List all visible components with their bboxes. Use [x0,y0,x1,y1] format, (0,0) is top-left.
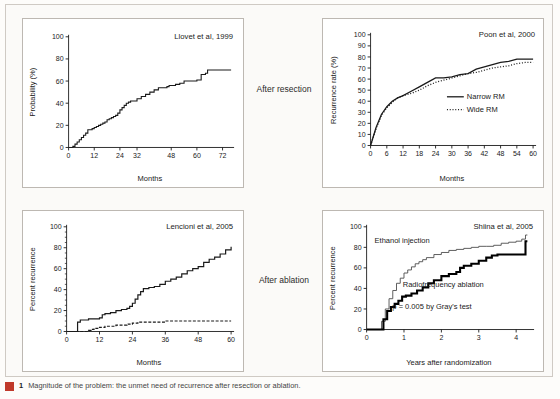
y-tick-label: 60 [54,265,62,272]
x-tick-label: 24 [128,336,136,343]
chart-annotation-2: p = 0.005 by Gray's test [392,302,472,311]
x-tick-label: 18 [415,150,423,157]
y-tick-label: 60 [358,76,366,83]
x-tick-label: 60 [529,150,537,157]
y-tick-label: 20 [56,122,64,129]
series-line-1 [67,321,232,331]
y-axis-label: Probability (%) [28,67,37,116]
x-tick-label: 12 [90,152,98,159]
x-tick-label: 2 [439,334,443,341]
x-tick-label: 4 [514,334,518,341]
x-tick-label: 36 [464,150,472,157]
chart-panel-lencioni: 02040608010001224364860MonthsPercent rec… [22,210,244,372]
chart-title: Lencioni et al, 2005 [166,222,233,231]
chart-annotation-1: Radiofrequency ablation [403,280,484,289]
x-tick-label: 48 [194,336,202,343]
legend-label-1: Wide RM [467,105,498,114]
x-tick-label: 48 [167,152,175,159]
series-line-0 [69,70,232,147]
y-tick-label: 30 [358,109,366,116]
chart-svg-shiina: 02040608010001234Years after randomizati… [323,211,543,371]
chart-title: Poon et al, 2000 [479,30,535,39]
y-tick-label: 20 [358,120,366,127]
x-tick-label: 36 [161,336,169,343]
y-tick-label: 80 [354,244,362,251]
chart-title: Llovet et al, 1999 [174,32,233,41]
y-tick-label: 100 [350,223,362,230]
y-tick-label: 0 [358,326,362,333]
chart-svg-llovet: 0204060801000122432486072MonthsProbabili… [23,19,243,187]
chart-svg-poon: 0102030405060708090100061218243036424854… [323,19,543,187]
group-label-after-ablation: After ablation [248,275,320,285]
x-tick-label: 32 [133,152,141,159]
chart-panel-poon: 0102030405060708090100061218243036424854… [322,18,544,188]
group-label-after-resection: After resection [248,84,320,94]
x-axis-label: Years after randomization [406,358,491,367]
y-tick-label: 0 [58,328,62,335]
x-tick-label: 24 [432,150,440,157]
series-line-1 [371,62,534,145]
y-tick-label: 100 [354,31,366,38]
y-tick-label: 90 [358,42,366,49]
figure-root: 0204060801000122432486072MonthsProbabili… [0,0,560,399]
x-tick-label: 54 [513,150,521,157]
y-tick-label: 0 [60,144,64,151]
x-tick-label: 72 [219,152,227,159]
y-axis-label: Percent recurrence [28,247,37,311]
y-tick-label: 80 [358,54,366,61]
x-tick-label: 12 [96,336,104,343]
x-tick-label: 30 [448,150,456,157]
x-tick-label: 60 [227,336,235,343]
y-tick-label: 100 [50,223,62,230]
figure-caption: 1 Magnitude of the problem: the unmet ne… [5,381,553,391]
x-axis-label: Months [138,174,163,183]
caption-marker-icon [5,382,14,391]
x-axis-label: Months [137,358,162,367]
y-tick-label: 80 [54,244,62,251]
chart-annotation-0: Ethanol injection [375,236,430,245]
y-tick-label: 40 [354,285,362,292]
chart-panel-shiina: 02040608010001234Years after randomizati… [322,210,544,372]
series-line-0 [67,247,232,332]
caption-text: Magnitude of the problem: the unmet need… [28,381,300,390]
y-tick-label: 20 [54,307,62,314]
y-tick-label: 40 [54,286,62,293]
y-tick-label: 100 [52,33,64,40]
y-tick-label: 80 [56,56,64,63]
y-tick-label: 50 [358,87,366,94]
y-tick-label: 60 [354,264,362,271]
y-axis-label: Recurrence rate (%) [329,56,338,124]
x-tick-label: 3 [477,334,481,341]
legend-label-0: Narrow RM [467,92,505,101]
y-tick-label: 70 [358,65,366,72]
y-axis-label: Percent recurrence [328,246,337,310]
x-tick-label: 1 [402,334,406,341]
chart-panel-llovet: 0204060801000122432486072MonthsProbabili… [22,18,244,188]
x-axis-label: Months [439,174,464,183]
y-tick-label: 10 [358,131,366,138]
x-tick-label: 60 [193,152,201,159]
chart-title: Shiina et al, 2005 [473,222,533,231]
y-tick-label: 0 [362,142,366,149]
x-tick-label: 0 [365,334,369,341]
x-tick-label: 12 [399,150,407,157]
y-tick-label: 60 [56,78,64,85]
caption-number: 1 [19,381,23,390]
series-line-0 [371,59,534,145]
x-tick-label: 6 [385,150,389,157]
x-tick-label: 0 [67,152,71,159]
x-tick-label: 48 [497,150,505,157]
x-tick-label: 0 [65,336,69,343]
x-tick-label: 24 [116,152,124,159]
chart-svg-lencioni: 02040608010001224364860MonthsPercent rec… [23,211,243,371]
x-tick-label: 42 [480,150,488,157]
x-tick-label: 0 [369,150,373,157]
y-tick-label: 40 [56,100,64,107]
y-tick-label: 20 [354,306,362,313]
y-tick-label: 40 [358,98,366,105]
